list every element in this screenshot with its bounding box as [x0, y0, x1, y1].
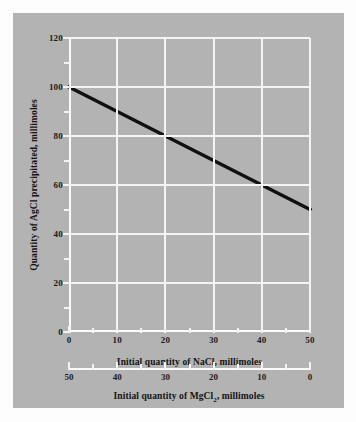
y-axis-title-text: Quantity of AgCl precipitated, millimole…	[29, 99, 39, 271]
x-tick-mark	[68, 326, 70, 333]
x-tick-minor	[92, 328, 94, 333]
secondary-x-tick-label: 10	[257, 372, 266, 382]
y-tick-label: 0	[58, 327, 63, 337]
figure-canvas: Quantity of AgCl precipitated, millimole…	[0, 0, 356, 422]
secondary-x-axis-title-text: Initial quantity of MgCl2, millimoles	[113, 391, 264, 401]
y-tick-mark	[63, 37, 71, 39]
gridline-horizontal	[69, 233, 310, 235]
secondary-x-tick-mark	[164, 362, 166, 370]
secondary-x-tick-mark	[261, 362, 263, 370]
y-tick-mark	[63, 135, 71, 137]
x-tick-label: 50	[305, 335, 314, 345]
secondary-x-tick-label: 0	[308, 372, 313, 382]
gridline-vertical	[261, 38, 263, 332]
y-tick-label: 20	[54, 278, 63, 288]
gridline-vertical	[164, 38, 166, 332]
x-tick-mark	[309, 326, 311, 333]
y-tick-minor	[64, 62, 70, 64]
y-tick-label: 80	[54, 131, 63, 141]
secondary-x-tick-mark	[213, 362, 215, 370]
x-tick-mark	[164, 326, 166, 333]
x-tick-label: 10	[112, 335, 121, 345]
y-tick-minor	[64, 307, 70, 309]
gridline-horizontal	[69, 184, 310, 186]
secondary-x-tick-label: 40	[113, 372, 122, 382]
x-tick-minor	[189, 328, 191, 333]
y-tick-minor	[64, 111, 70, 113]
y-tick-label: 100	[49, 82, 63, 92]
gridline-horizontal	[69, 135, 310, 137]
x-tick-label: 0	[67, 335, 72, 345]
secondary-x-axis-line: 50403020100	[69, 368, 310, 370]
gridline-horizontal	[69, 86, 310, 88]
secondary-x-tick-mark	[309, 362, 311, 370]
chart-panel: Quantity of AgCl precipitated, millimole…	[13, 13, 344, 408]
x-tick-mark	[261, 326, 263, 333]
secondary-x-tick-label: 20	[209, 372, 218, 382]
x-tick-mark	[116, 326, 118, 333]
y-axis-title: Quantity of AgCl precipitated, millimole…	[27, 38, 41, 332]
plot-area: 020406080100120 01020304050	[69, 38, 310, 332]
secondary-x-axis-title: Initial quantity of MgCl2, millimoles	[53, 391, 325, 404]
x-tick-minor	[285, 328, 287, 333]
secondary-x-tick-minor	[237, 364, 239, 370]
gridline-horizontal	[69, 37, 310, 39]
secondary-x-tick-label: 50	[65, 372, 74, 382]
data-series-line	[69, 87, 310, 210]
gridline-horizontal	[69, 282, 310, 284]
x-tick-minor	[140, 328, 142, 333]
y-tick-minor	[64, 209, 70, 211]
y-tick-mark	[63, 86, 71, 88]
x-tick-minor	[237, 328, 239, 333]
secondary-x-tick-minor	[92, 364, 94, 370]
y-tick-mark	[63, 282, 71, 284]
x-tick-label: 20	[161, 335, 170, 345]
x-tick-label: 40	[257, 335, 266, 345]
secondary-x-tick-mark	[68, 362, 70, 370]
x-tick-label: 30	[209, 335, 218, 345]
y-tick-mark	[63, 233, 71, 235]
y-tick-label: 120	[49, 33, 63, 43]
secondary-x-tick-minor	[140, 364, 142, 370]
y-tick-label: 60	[54, 180, 63, 190]
y-tick-minor	[64, 160, 70, 162]
x-tick-mark	[213, 326, 215, 333]
series-group	[69, 87, 310, 210]
secondary-x-tick-minor	[285, 364, 287, 370]
secondary-x-tick-mark	[116, 362, 118, 370]
gridline-vertical	[116, 38, 118, 332]
secondary-x-tick-minor	[189, 364, 191, 370]
y-tick-mark	[63, 184, 71, 186]
gridline-vertical	[213, 38, 215, 332]
y-tick-minor	[64, 258, 70, 260]
secondary-x-tick-label: 30	[161, 372, 170, 382]
gridline-vertical	[309, 38, 311, 332]
y-tick-label: 40	[54, 229, 63, 239]
